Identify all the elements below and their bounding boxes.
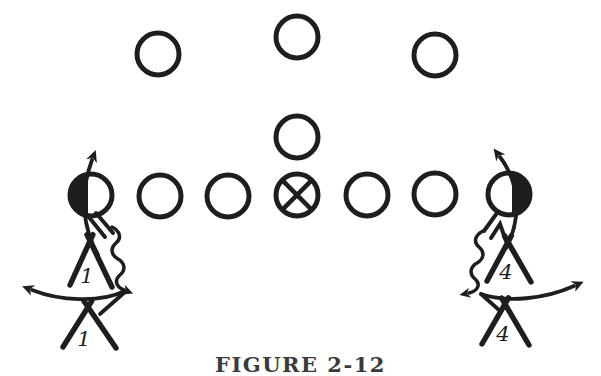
player-circle-right-end [488,173,530,215]
player-circle-quarterback [276,116,318,158]
player-circle-back-right [414,34,456,76]
offense-layer [70,16,530,217]
right-motion-squiggle [469,231,483,293]
defender-marker-right-front: 4 [487,236,531,284]
player-circle-left-guard [207,175,249,217]
figure-caption: FIGURE 2-12 [0,352,601,376]
player-circle-back-left [137,33,179,75]
defender-marker-left-front: 1 [70,235,112,288]
right-reverse-arrow [481,286,574,310]
player-circle-left-end [70,174,112,216]
left-reverse-arrow [32,290,125,314]
defender-number: 4 [495,322,509,346]
left-motion-squiggle [112,227,124,290]
player-circle-left-tackle [139,175,181,217]
defender-number: 1 [80,264,93,288]
player-circle-back-middle [276,16,318,58]
defender-number: 4 [498,260,512,284]
player-circle-center [276,174,318,216]
defender-marker-right-deep: 4 [482,298,529,346]
defenders-layer: 1144 [63,235,531,351]
defender-number: 1 [77,327,90,351]
player-circle-right-guard [346,174,388,216]
player-circle-right-tackle [414,173,456,215]
